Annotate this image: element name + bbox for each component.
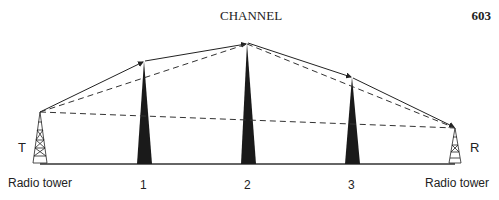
relay-3-label: 3 (348, 178, 355, 192)
receiver-tower-icon (449, 128, 461, 163)
transmitter-letter: T (18, 140, 26, 155)
relay-1-label: 1 (140, 178, 147, 192)
relay-2-label: 2 (244, 178, 251, 192)
transmitter-label: Radio tower (8, 176, 72, 190)
relay-2-mast (241, 43, 256, 164)
receiver-label: Radio tower (425, 176, 489, 190)
transmitter-tower-icon (33, 112, 47, 163)
relay-3-mast (345, 77, 360, 164)
receiver-letter: R (470, 140, 479, 155)
relay-channel-diagram (0, 0, 499, 200)
